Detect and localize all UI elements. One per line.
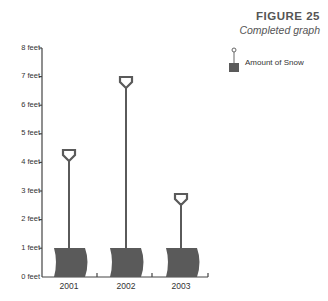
y-tick-8: 8 feet [0, 43, 40, 52]
x-label-2001: 2001 [49, 281, 89, 291]
shovel-icon [229, 48, 239, 72]
y-tick-7: 7 feet [0, 71, 40, 80]
shovel-bar-2003 [166, 194, 200, 277]
chart-canvas [0, 0, 328, 301]
x-label-2003: 2003 [161, 281, 201, 291]
y-tick-2: 2 feet [0, 214, 40, 223]
shovel-bar-2002 [110, 77, 144, 277]
y-tick-4: 4 feet [0, 157, 40, 166]
x-label-2002: 2002 [106, 281, 146, 291]
y-tick-0: 0 feet [0, 272, 40, 281]
y-tick-6: 6 feet [0, 100, 40, 109]
legend-label: Amount of Snow [245, 58, 304, 67]
y-tick-1: 1 feet [0, 243, 40, 252]
y-tick-5: 5 feet [0, 128, 40, 137]
shovel-bar-2001 [54, 150, 88, 277]
y-tick-3: 3 feet [0, 186, 40, 195]
